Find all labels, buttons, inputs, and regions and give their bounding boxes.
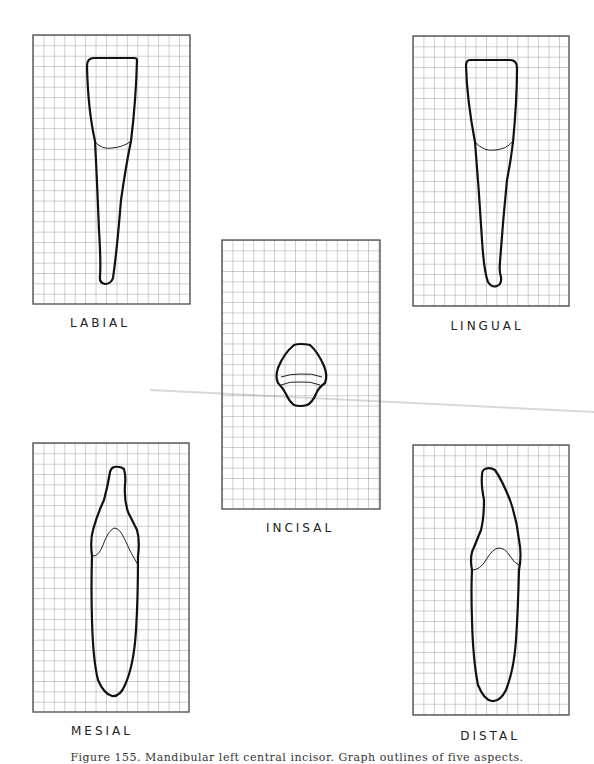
distal-grid bbox=[413, 445, 569, 715]
labial-grid bbox=[33, 35, 190, 304]
distal-label: DISTAL bbox=[410, 729, 570, 743]
figure-caption: Figure 155. Mandibular left central inci… bbox=[0, 751, 594, 764]
mesial-grid bbox=[33, 443, 189, 712]
mesial-label: MESIAL bbox=[22, 724, 182, 738]
lingual-grid bbox=[413, 36, 569, 306]
incisal-panel bbox=[222, 240, 380, 509]
lingual-panel bbox=[413, 36, 569, 306]
lingual-label: LINGUAL bbox=[407, 319, 567, 333]
incisal-grid bbox=[222, 240, 380, 509]
incisal-label: INCISAL bbox=[220, 521, 380, 535]
distal-panel bbox=[413, 445, 569, 715]
mesial-panel bbox=[33, 443, 189, 712]
labial-panel bbox=[33, 35, 190, 304]
labial-label: LABIAL bbox=[20, 316, 180, 330]
